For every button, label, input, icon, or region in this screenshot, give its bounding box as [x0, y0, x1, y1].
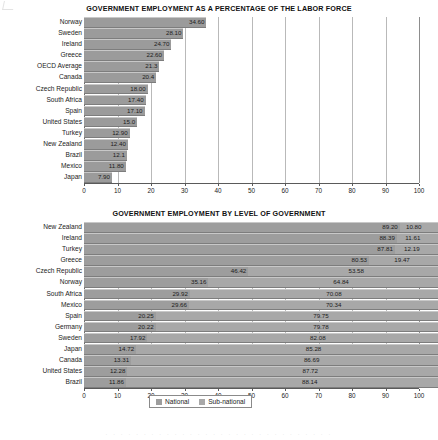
chart1-x-axis: 0102030405060708090100 — [84, 183, 419, 196]
bar-segment-national — [84, 222, 400, 233]
x-tick-label: 20 — [147, 186, 154, 195]
row-category-label: Greece — [0, 255, 84, 266]
row-bar-track: 20.2279.78 — [84, 322, 438, 333]
row-bar-track: 12.2887.72 — [84, 366, 438, 377]
chart-row: Mexico29.6670.34 — [0, 300, 438, 311]
bar-value-label-sub-national: 12.19 — [404, 244, 421, 255]
row-bar-track: 7.90 — [84, 172, 438, 183]
row-category-label: Ireland — [0, 39, 84, 50]
x-tick-label: 100 — [414, 186, 425, 195]
bar-value-label: 12.90 — [112, 128, 129, 139]
row-category-label: Mexico — [0, 161, 84, 172]
chart-row: Spain17.10 — [0, 106, 438, 117]
bar-segment-national — [84, 255, 369, 266]
x-tick-label: 90 — [382, 391, 389, 400]
chart-row: Mexico11.80 — [0, 161, 438, 172]
row-bar-track: 11.8688.14 — [84, 377, 438, 388]
chart-government-employment-percentage: GOVERNMENT EMPLOYMENT AS A PERCENTAGE OF… — [0, 4, 438, 196]
bar-value-label-national: 12.28 — [110, 366, 127, 377]
chart1-bar-rows: Norway34.60Sweden28.10Ireland24.70Greece… — [0, 17, 438, 183]
chart-row: South Africa17.40 — [0, 95, 438, 106]
row-bar-track: 17.9282.08 — [84, 333, 438, 344]
chart-row: United States15.0 — [0, 117, 438, 128]
legend-swatch-national-icon — [156, 399, 162, 405]
chart-row: Sweden28.10 — [0, 28, 438, 39]
bar-value-label-sub-national: 64.84 — [333, 277, 350, 288]
x-tick-label: 90 — [382, 186, 389, 195]
chart2-bar-rows: New Zealand89.2010.80Ireland88.3911.61Tu… — [0, 222, 438, 388]
row-category-label: Canada — [0, 355, 84, 366]
x-tick-label: 70 — [315, 186, 322, 195]
row-category-label: South Africa — [0, 95, 84, 106]
bar-value-label-sub-national: 85.28 — [306, 344, 323, 355]
chart-row: South Africa29.9270.08 — [0, 289, 438, 300]
bar-value-label: 21.3 — [145, 61, 159, 72]
bar-value-label-sub-national: 19.47 — [394, 255, 411, 266]
row-bar-track: 20.2579.75 — [84, 311, 438, 322]
x-tick-label: 40 — [214, 186, 221, 195]
row-category-label: Ireland — [0, 233, 84, 244]
chart-row: Czech Republic46.4253.58 — [0, 266, 438, 277]
bar-value-label-sub-national: 10.80 — [406, 222, 423, 233]
bar-value-label-national: 29.66 — [172, 300, 189, 311]
chart-row: Germany20.2279.78 — [0, 322, 438, 333]
bar-value-label-sub-national: 86.69 — [304, 355, 321, 366]
bar-value-label-national: 14.72 — [119, 344, 136, 355]
row-bar-track: 46.4253.58 — [84, 266, 438, 277]
row-bar-track: 12.90 — [84, 128, 438, 139]
bar-segment-sub-national — [147, 333, 438, 344]
row-category-label: Brazil — [0, 377, 84, 388]
x-tick-label: 80 — [348, 186, 355, 195]
row-bar-track: 29.6670.34 — [84, 300, 438, 311]
chart-row: Greece80.5319.47 — [0, 255, 438, 266]
x-tick-label: 60 — [281, 186, 288, 195]
row-bar-track: 11.80 — [84, 161, 438, 172]
row-bar-track: 87.8112.19 — [84, 244, 438, 255]
legend-item-national: National — [156, 398, 189, 405]
row-category-label: Turkey — [0, 128, 84, 139]
bar-value-label-national: 89.20 — [382, 222, 399, 233]
legend-label-national: National — [165, 398, 189, 405]
row-category-label: Greece — [0, 50, 84, 61]
bar-value-label: 15.0 — [123, 117, 137, 128]
x-tick-label: 60 — [281, 391, 288, 400]
x-tick-label: 80 — [348, 391, 355, 400]
bar-segment-sub-national — [156, 311, 438, 322]
bar-segment-national — [84, 244, 395, 255]
bar-value-label: 34.60 — [189, 17, 206, 28]
chart-row: Turkey12.90 — [0, 128, 438, 139]
bar-segment-sub-national — [189, 300, 438, 311]
chart-row: New Zealand12.40 — [0, 139, 438, 150]
row-category-label: New Zealand — [0, 222, 84, 233]
row-bar-track: 28.10 — [84, 28, 438, 39]
row-bar-track: 17.40 — [84, 95, 438, 106]
row-bar-track: 88.3911.61 — [84, 233, 438, 244]
row-category-label: Norway — [0, 17, 84, 28]
bar-value-label: 7.90 — [98, 172, 112, 183]
chart-row: Canada20.4 — [0, 72, 438, 83]
row-bar-track: 22.60 — [84, 50, 438, 61]
bar-value-label-national: 20.25 — [138, 311, 155, 322]
legend-swatch-sub-national-icon — [199, 399, 205, 405]
row-category-label: Sweden — [0, 28, 84, 39]
x-tick-label: 30 — [181, 186, 188, 195]
row-category-label: Mexico — [0, 300, 84, 311]
row-bar-track: 35.1664.84 — [84, 277, 438, 288]
bar-segment-national — [84, 233, 397, 244]
row-bar-track: 20.4 — [84, 72, 438, 83]
bar-value-label-national: 88.39 — [379, 233, 396, 244]
bar-value-label-national: 17.92 — [130, 333, 147, 344]
chart-row: Norway34.60 — [0, 17, 438, 28]
x-tick-label: 10 — [114, 391, 121, 400]
bar-value-label-national: 29.92 — [172, 289, 189, 300]
chart-row: Sweden17.9282.08 — [0, 333, 438, 344]
chart-row: Brazil12.1 — [0, 150, 438, 161]
bar-value-label-national: 11.86 — [109, 377, 126, 388]
row-category-label: Spain — [0, 106, 84, 117]
bar-value-label: 28.10 — [166, 28, 183, 39]
bar-value-label: 12.1 — [113, 150, 127, 161]
bar-value-label: 18.00 — [130, 84, 147, 95]
bar-value-label-sub-national: 11.61 — [405, 233, 422, 244]
row-category-label: Brazil — [0, 150, 84, 161]
row-category-label: Sweden — [0, 333, 84, 344]
